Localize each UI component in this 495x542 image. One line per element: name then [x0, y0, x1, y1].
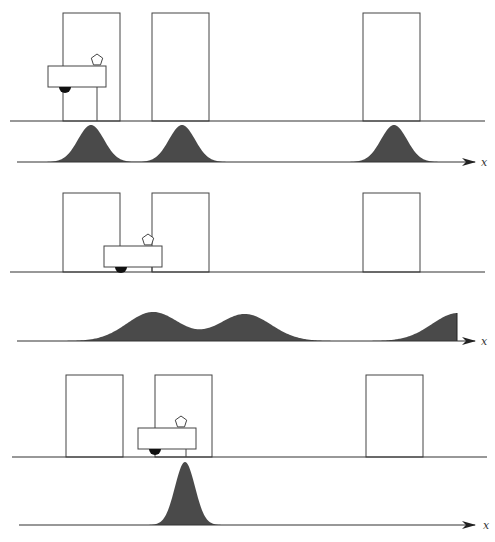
belief-distribution — [17, 125, 470, 162]
belief-distribution — [17, 312, 457, 341]
robot — [138, 416, 196, 457]
door — [66, 375, 123, 457]
robot-body — [48, 66, 106, 87]
sensor-pentagon-icon — [91, 54, 102, 65]
door — [366, 375, 423, 457]
robot-body — [138, 428, 196, 449]
corridor-scene — [10, 193, 485, 273]
corridor-scene — [12, 375, 487, 457]
wheel-icon — [149, 449, 161, 455]
x-axis-label: x — [483, 519, 490, 532]
belief-plot: x — [19, 462, 490, 532]
x-axis-label: x — [481, 335, 488, 348]
x-axis-label: x — [481, 156, 488, 169]
belief-plot: x — [17, 125, 488, 169]
door — [363, 13, 420, 121]
door — [363, 193, 420, 272]
panels-root: xxx — [10, 13, 490, 532]
robot — [48, 54, 106, 121]
belief-plot: x — [17, 312, 488, 348]
door — [152, 13, 209, 121]
robot-body — [104, 246, 162, 267]
localization-diagram: xxx — [0, 0, 495, 542]
belief-distribution — [19, 462, 470, 525]
wheel-icon — [59, 87, 71, 93]
robot — [104, 234, 162, 273]
corridor-scene — [10, 13, 485, 121]
sensor-pentagon-icon — [175, 416, 186, 427]
